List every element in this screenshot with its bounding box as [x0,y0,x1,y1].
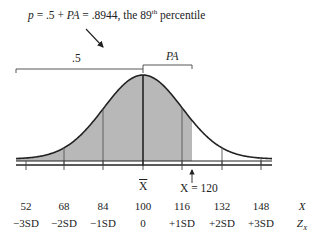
z-value: +1SD [169,218,195,229]
left-bracket-label: .5 [72,53,81,65]
x-value: 68 [59,201,70,212]
z-value: −2SD [51,218,77,229]
equation-part: = .5 + [34,9,67,21]
z-value: +3SD [248,218,274,229]
z-value: −1SD [90,218,116,229]
shaded-area [16,75,272,161]
percentile-annotation: p = .5 + PA = .8944, the 89th percentile [28,10,205,22]
x-value: 132 [214,201,231,212]
equation-value: = .8944, the 89 [79,9,151,21]
right-bracket-label: PA [166,51,179,63]
x-value: 100 [135,201,152,212]
score-marker-label: X = 120 [180,183,218,195]
left-bracket [16,69,143,73]
z-value: +2SD [209,218,235,229]
x-value: 148 [253,201,270,212]
right-bracket [143,65,192,69]
equation-suffix: percentile [157,9,205,21]
z-row-label: ZX [297,218,307,232]
x-value: 52 [21,201,32,212]
pa-symbol: PA [67,9,80,21]
x-row-label: X [299,201,306,212]
annotation-arrow-icon [86,29,103,47]
mean-marker-label: X [139,181,147,193]
z-value: 0 [140,218,146,229]
x-value: 84 [98,201,109,212]
x-value: 116 [174,201,190,212]
z-value: −3SD [13,218,39,229]
